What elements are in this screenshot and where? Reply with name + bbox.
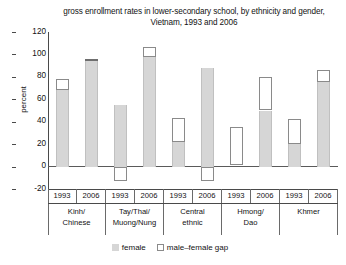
bar-female: [201, 68, 214, 167]
year-cell: 1993: [48, 189, 77, 203]
year-cell: 1993: [164, 189, 193, 203]
year-cell: 2006: [77, 189, 106, 203]
y-tick-mark: [12, 54, 16, 55]
bar-female: [172, 142, 185, 167]
year-cell: 2006: [193, 189, 222, 203]
group-label-line1: Central: [164, 207, 221, 218]
legend-item: male–female gap: [157, 243, 228, 252]
bar-gap-negative: [114, 167, 127, 182]
group-label-line2: Muong/Nung: [106, 218, 163, 229]
y-tick-label: 0: [20, 161, 46, 170]
bar-gap: [172, 118, 185, 142]
y-tick-mark: [12, 32, 16, 33]
chart-container: gross enrollment rates in lower-secondar…: [0, 0, 346, 265]
group-label-line2: Dao: [222, 218, 279, 229]
bar-female: [317, 82, 330, 166]
y-tick-label: 100: [20, 49, 46, 58]
group-label-line1: Kinh/: [48, 207, 105, 218]
y-tick-label: 20: [20, 139, 46, 148]
bar-female: [114, 105, 127, 167]
group-label-line1: Tay/Thai/: [106, 207, 163, 218]
year-cell: 2006: [135, 189, 164, 203]
bar-gap: [259, 77, 272, 111]
group-row: Kinh/ChineseTay/Thai/Muong/NungCentralet…: [48, 204, 338, 235]
year-row: 1993200619932006199320061993200619932006: [48, 189, 338, 203]
chart-title: gross enrollment rates in lower-secondar…: [48, 6, 340, 28]
bar-female: [259, 111, 272, 167]
group-label-line1: Hmong/: [222, 207, 279, 218]
bar-female: [56, 90, 69, 166]
bar-gap-cap: [85, 59, 98, 61]
y-tick-mark: [12, 189, 16, 190]
bar-female: [143, 57, 156, 167]
group-cell: Centralethnic: [164, 204, 222, 235]
y-tick-mark: [12, 167, 16, 168]
year-cell: 1993: [222, 189, 251, 203]
y-tick-mark: [12, 144, 16, 145]
year-cell: 2006: [251, 189, 280, 203]
y-tick-label: 40: [20, 116, 46, 125]
y-axis-ticks: 120100806040200-20: [14, 0, 46, 265]
chart-legend: femalemale–female gap: [0, 243, 346, 252]
group-cell: Kinh/Chinese: [48, 204, 106, 235]
y-tick-label: 120: [20, 27, 46, 36]
year-cell: 1993: [106, 189, 135, 203]
y-tick-label: -20: [20, 184, 46, 193]
y-tick-mark: [12, 122, 16, 123]
bar-gap: [288, 119, 301, 144]
y-tick-mark: [12, 77, 16, 78]
legend-swatch-gap: [157, 244, 164, 251]
y-tick-mark: [12, 99, 16, 100]
group-label-line1: Khmer: [280, 207, 337, 218]
plot-area: [48, 32, 338, 189]
year-cell: 2006: [309, 189, 338, 203]
bar-female: [288, 144, 301, 166]
bar-female: [85, 61, 98, 166]
y-tick-label: 80: [20, 71, 46, 80]
x-axis-table: 1993200619932006199320061993200619932006…: [48, 189, 338, 235]
group-cell: Hmong/Dao: [222, 204, 280, 235]
group-label-line2: ethnic: [164, 218, 221, 229]
bar-gap: [143, 47, 156, 57]
chart-title-line1: gross enrollment rates in lower-secondar…: [63, 7, 296, 16]
y-tick-label: 60: [20, 94, 46, 103]
bar-gap-negative: [201, 167, 214, 182]
legend-label: male–female gap: [167, 243, 228, 252]
group-label-line2: Chinese: [48, 218, 105, 229]
legend-item: female: [112, 243, 146, 252]
bar-gap: [56, 79, 69, 90]
bar-gap: [230, 127, 243, 165]
legend-swatch-female: [112, 244, 119, 251]
bar-gap: [317, 70, 330, 82]
legend-label: female: [122, 243, 146, 252]
group-cell: Tay/Thai/Muong/Nung: [106, 204, 164, 235]
year-cell: 1993: [280, 189, 309, 203]
group-cell: Khmer: [280, 204, 338, 235]
